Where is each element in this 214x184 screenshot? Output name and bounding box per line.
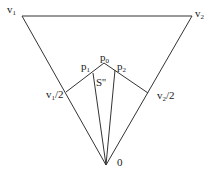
label-v2-half: v2/2 — [157, 90, 175, 103]
label-v1: v1 — [7, 4, 16, 17]
edge-p0-v2half — [104, 63, 148, 93]
triangle-diagram: v1 v2 p0 p1 p2 S'' v1/2 v2/2 0 — [0, 0, 214, 184]
diagram-lines — [0, 0, 214, 184]
label-origin: 0 — [117, 157, 123, 168]
edge-v1-origin — [22, 16, 106, 165]
label-p0: p0 — [100, 52, 109, 65]
label-s-double-prime: S'' — [96, 77, 106, 88]
label-v1-half: v1/2 — [46, 89, 64, 102]
label-v2: v2 — [195, 8, 204, 21]
edge-v2-origin — [106, 16, 192, 165]
label-p2: p2 — [117, 61, 126, 74]
label-p1: p1 — [81, 61, 90, 74]
